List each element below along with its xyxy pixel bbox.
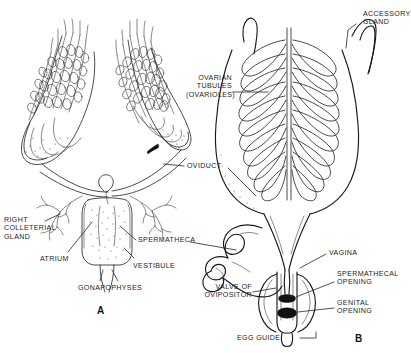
- label-ovarian-tubules: OVARIAN TUBULES (OVARIOLES): [186, 74, 232, 99]
- label-right-colleterial-gland: RIGHT COLLETERIAL GLAND: [4, 216, 56, 241]
- leader-vestibule: [124, 248, 134, 258]
- leader-valve-of-ovipositor: [253, 288, 276, 292]
- label-atrium: ATRIUM: [40, 255, 69, 263]
- panel-a-colleterial-glands: [37, 196, 176, 240]
- spermathecal-opening-marking: [279, 295, 296, 303]
- stipple-shading-atrium: [90, 210, 127, 260]
- panel-a-right-ovary: [114, 19, 191, 154]
- stipple-shading-right-ovary: [162, 129, 186, 148]
- stipple-shading-left-ovary: [25, 137, 68, 156]
- label-spermathecal-opening: SPERMATHECAL OPENING: [337, 270, 399, 287]
- panel-label-b: B: [355, 333, 363, 344]
- leader-atrium: [68, 222, 92, 252]
- panel-b-vagina: [264, 214, 310, 294]
- leader-spermatheca-b: [190, 242, 236, 250]
- label-oviduct: OVIDUCT: [187, 162, 221, 170]
- genital-opening-marking: [278, 308, 297, 319]
- leader-egg-guide: [300, 332, 316, 338]
- label-vagina: VAGINA: [329, 249, 357, 257]
- label-accessory-gland: ACCESSORY GLAND: [363, 10, 411, 27]
- label-gonapophyses: GONAPOPHYSES: [78, 284, 142, 292]
- panel-a-left-ovary: [21, 19, 94, 165]
- oviduct-marking: [147, 144, 159, 154]
- label-egg-guide: EGG GUIDE: [237, 334, 280, 342]
- label-vestibule: VESTIBULE: [133, 262, 175, 270]
- leader-spermatheca-a: [120, 226, 136, 240]
- panel-a-oviducts: [40, 150, 186, 197]
- leader-accessory-gland: [346, 24, 356, 48]
- leader-oviduct-right: [228, 168, 256, 196]
- label-spermatheca: SPERMATHECA: [138, 236, 195, 244]
- leader-genital-opening: [298, 308, 334, 312]
- leader-vagina: [300, 254, 326, 268]
- leader-oviduct: [164, 164, 184, 166]
- label-valve-of-ovipositor: VALVE OF OVIPOSITOR: [196, 283, 252, 300]
- panel-label-a: A: [97, 305, 105, 316]
- label-genital-opening: GENITAL OPENING: [337, 299, 372, 316]
- panel-b-ovarioles: [215, 18, 376, 214]
